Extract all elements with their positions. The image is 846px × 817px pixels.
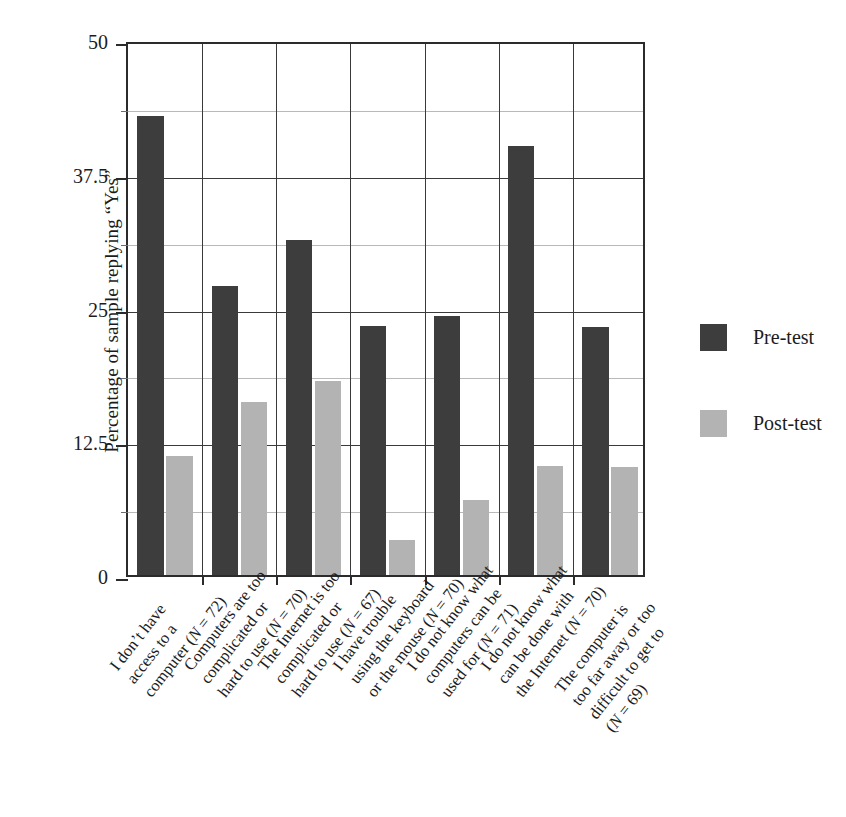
y-axis-tick-minor (121, 512, 128, 513)
y-axis-tick (116, 445, 128, 447)
bar-pre-test (582, 327, 608, 575)
bar-chart-figure: Percentage of sample replying “Yes” 012.… (0, 0, 846, 817)
bar-post-test (241, 402, 267, 575)
y-gridline-major (128, 178, 643, 179)
x-gridline (425, 44, 426, 575)
y-axis-tick-label: 12.5 (0, 432, 108, 455)
y-gridline-major (128, 312, 643, 313)
legend-swatch-pre-test-icon (700, 324, 727, 351)
bar-post-test (611, 467, 637, 575)
legend-item-post-test[interactable]: Post-test (700, 408, 822, 438)
bar-pre-test (508, 146, 534, 575)
x-gridline (276, 44, 277, 575)
x-gridline (350, 44, 351, 575)
y-axis-tick-minor (121, 378, 128, 379)
y-axis-tick-label: 37.5 (0, 164, 108, 187)
y-gridline-minor (128, 111, 643, 112)
legend-swatch-post-test-icon (700, 410, 727, 437)
bar-post-test (315, 381, 341, 575)
y-axis-tick-minor (121, 245, 128, 246)
bar-pre-test (137, 116, 163, 575)
y-axis-tick-label: 0 (0, 566, 108, 589)
legend: Pre-test Post-test (700, 322, 822, 494)
bar-pre-test (360, 326, 386, 575)
plot-area (126, 42, 645, 577)
y-axis-tick-label: 50 (0, 31, 108, 54)
legend-label-pre-test: Pre-test (753, 326, 814, 349)
bar-post-test (166, 456, 192, 575)
legend-label-post-test: Post-test (753, 412, 822, 435)
bar-pre-test (286, 240, 312, 575)
bar-pre-test (434, 316, 460, 575)
y-axis-tick-minor (121, 111, 128, 112)
legend-item-pre-test[interactable]: Pre-test (700, 322, 822, 352)
x-gridline (499, 44, 500, 575)
y-axis-tick (116, 579, 128, 581)
bar-pre-test (212, 286, 238, 575)
x-gridline (202, 44, 203, 575)
x-gridline (573, 44, 574, 575)
y-axis-tick (116, 178, 128, 180)
y-axis-tick (116, 44, 128, 46)
y-axis-tick-label: 25 (0, 298, 108, 321)
y-gridline-minor (128, 245, 643, 246)
y-axis-tick (116, 312, 128, 314)
